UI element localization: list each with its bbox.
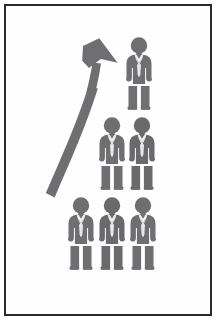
businessman-person-2 (99, 117, 125, 190)
figure-row-middle (99, 117, 155, 190)
arrow-shaft (46, 86, 98, 197)
businessman-person-5 (99, 197, 125, 269)
businessman-person-6 (130, 197, 156, 269)
businessman-person-3 (129, 117, 155, 190)
businessman-person-4 (68, 197, 94, 269)
illustration-svg (0, 0, 216, 320)
illustration-card: Business team growth illustration Curved… (0, 0, 216, 320)
businessman-person-1 (126, 37, 152, 110)
artboard (0, 0, 216, 320)
figure-row-top (126, 37, 152, 110)
figure-row-bottom (68, 197, 156, 269)
